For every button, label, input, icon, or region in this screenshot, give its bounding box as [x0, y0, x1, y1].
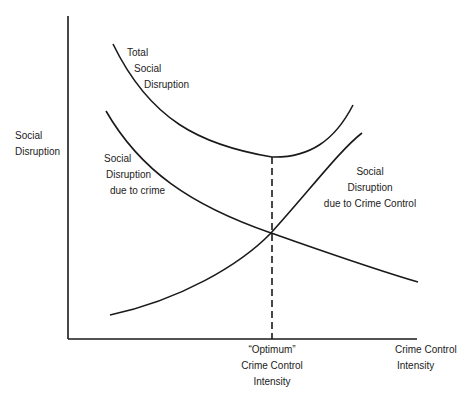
x-axis-label-line: Intensity [395, 358, 457, 374]
total-curve-label: Total Social Disruption [127, 45, 189, 93]
optimum-label: “Optimum” Crime Control Intensity [232, 342, 312, 390]
label-line: due to crime [104, 183, 165, 199]
y-axis-label-line: Social [15, 128, 60, 144]
y-axis-label: Social Disruption [15, 128, 60, 160]
crime-curve-label: Social Disruption due to crime [104, 151, 165, 199]
label-line: Disruption [127, 77, 189, 93]
control-curve-label: Social Disruption due to Crime Control [310, 164, 430, 212]
label-line: Disruption [310, 180, 430, 196]
label-line: due to Crime Control [310, 196, 430, 212]
label-line: Social [127, 61, 189, 77]
label-line: Total [127, 45, 189, 61]
x-axis-label-line: Crime Control [395, 342, 457, 358]
label-line: Social [104, 151, 165, 167]
label-line: “Optimum” [232, 342, 312, 358]
label-line: Crime Control [232, 358, 312, 374]
y-axis-label-line: Disruption [15, 144, 60, 160]
label-line: Intensity [232, 374, 312, 390]
label-line: Disruption [104, 167, 165, 183]
label-line: Social [310, 164, 430, 180]
x-axis-label: Crime Control Intensity [395, 342, 457, 374]
